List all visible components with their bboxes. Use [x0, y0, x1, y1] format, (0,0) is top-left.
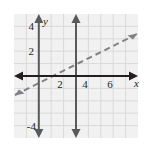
graph-figure: y x 2 4 6 4 2 -4 [0, 0, 152, 157]
y-tick-label-2: 2 [29, 45, 35, 57]
x-axis-label: x [133, 77, 139, 89]
y-axis-label: y [42, 15, 48, 27]
y-tick-label-minus-4: -4 [27, 120, 37, 132]
x-tick-label-6: 6 [107, 78, 113, 90]
coordinate-plane: y x 2 4 6 4 2 -4 [0, 0, 152, 157]
y-tick-label-4: 4 [29, 20, 35, 32]
x-tick-label-4: 4 [82, 78, 88, 90]
x-tick-label-2: 2 [57, 78, 63, 90]
